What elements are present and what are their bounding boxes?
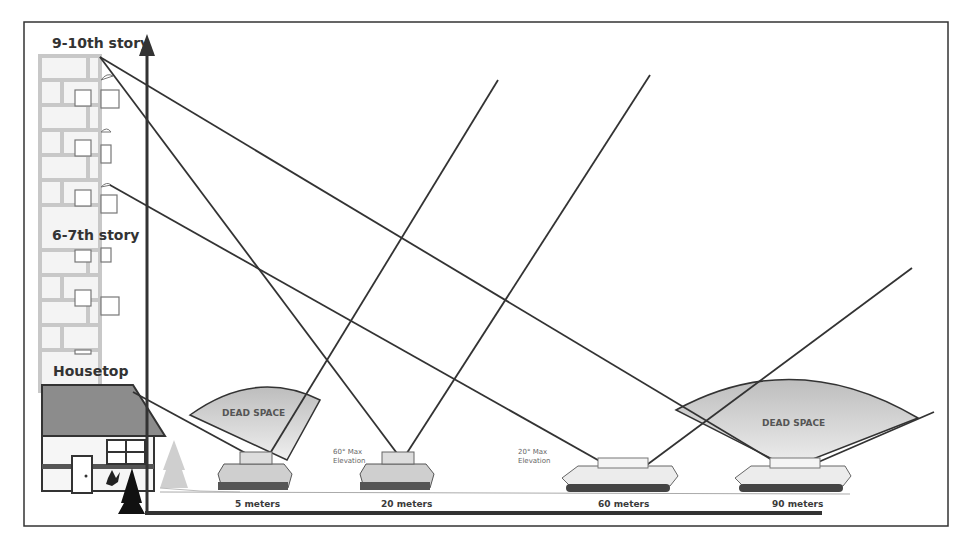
label-housetop: Housetop [53,363,128,379]
dead-space-diagram [0,0,963,545]
elevation-note-20: 20° Max Elevation [518,448,551,466]
dead-space-label-far: DEAD SPACE [762,418,825,428]
elevation-angle-20: 20° Max [518,448,551,457]
distance-label-60m: 60 meters [598,499,649,509]
elevation-text-60: Elevation [333,457,366,466]
label-9-10th-story: 9-10th story [52,35,149,51]
distance-label-20m: 20 meters [381,499,432,509]
label-6-7th-story: 6-7th story [52,227,140,243]
elevation-note-60: 60° Max Elevation [333,448,366,466]
elevation-angle-60: 60° Max [333,448,366,457]
distance-label-90m: 90 meters [772,499,823,509]
elevation-text-20: Elevation [518,457,551,466]
distance-label-5m: 5 meters [235,499,280,509]
dead-space-label-near: DEAD SPACE [222,408,285,418]
